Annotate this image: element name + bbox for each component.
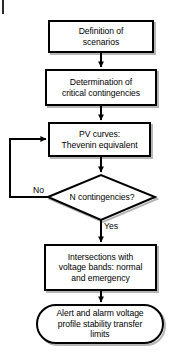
- flowchart-canvas: Definition of scenarios Determination of…: [0, 0, 175, 361]
- flowchart-graphics: [0, 0, 175, 361]
- shape-alert-and-alarm-limits: [37, 305, 163, 343]
- edge-decision-no-feedback: [10, 139, 48, 197]
- shape-pv-curves-thevenin-equivalent: [49, 123, 150, 156]
- shape-definition-of-scenarios: [49, 21, 153, 52]
- shape-n-contingencies-decision: [48, 175, 155, 220]
- shape-determination-of-critical-contingencies: [46, 70, 156, 105]
- shape-intersections-with-voltage-bands: [45, 245, 156, 290]
